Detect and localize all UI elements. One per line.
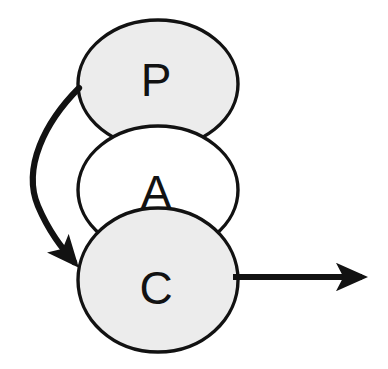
- edge-presentation-to-control-path: [33, 88, 79, 262]
- pac-diagram-svg: P A C: [0, 0, 388, 369]
- node-control[interactable]: C: [78, 208, 238, 352]
- node-presentation-label: P: [141, 54, 172, 106]
- diagram-canvas: P A C: [0, 0, 388, 369]
- node-control-label: C: [139, 262, 172, 314]
- edge-presentation-to-control[interactable]: [33, 88, 79, 262]
